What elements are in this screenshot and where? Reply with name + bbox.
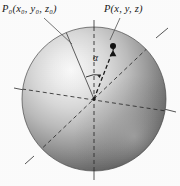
point-p-marker: [110, 43, 116, 49]
point-p0-label: P₀(x₀, y₀, z₀): [2, 4, 57, 15]
horizontal-axis-right-outer: [164, 109, 176, 112]
depth-axis-lower-left-outer: [25, 156, 34, 164]
diagram-canvas: [0, 0, 180, 186]
angle-alpha-label: α: [93, 54, 98, 64]
origin-marker: [92, 97, 96, 101]
depth-axis-upper-right-outer: [156, 28, 168, 38]
point-p-label: P(x, y, z): [104, 4, 143, 15]
sphere-diagram: P₀(x₀, y₀, z₀) P(x, y, z) α: [0, 0, 180, 186]
